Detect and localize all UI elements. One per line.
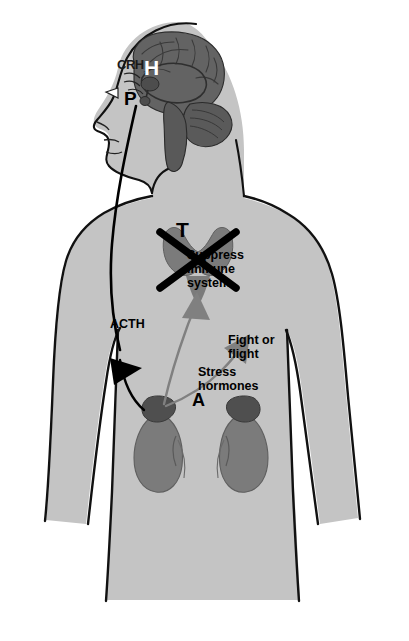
hypothalamus-label: H	[144, 56, 159, 80]
adrenal-label: A	[192, 390, 205, 410]
anatomy-illustration	[0, 0, 409, 641]
diagram-canvas: CRH H P T A ACTH Suppress immune system …	[0, 0, 409, 641]
stress-hormones-label: Stress hormones	[198, 365, 258, 393]
suppress-immune-system-label: Suppress immune system	[187, 248, 244, 290]
crh-label: CRH	[117, 58, 144, 73]
cerebellum-shape	[183, 103, 232, 147]
acth-label: ACTH	[110, 317, 145, 331]
pituitary-label: P	[124, 88, 137, 109]
pituitary-node	[140, 97, 150, 106]
thymus-label: T	[176, 218, 189, 242]
fight-or-flight-label: Fight or flight	[228, 333, 275, 361]
